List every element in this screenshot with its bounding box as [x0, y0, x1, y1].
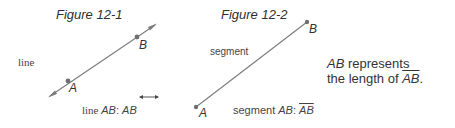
segment-point-a-dot — [194, 105, 198, 109]
figure2-title: Figure 12-2 — [221, 7, 287, 22]
line-notation: AB — [122, 104, 137, 116]
note-notation: AB — [402, 71, 419, 86]
caption-prefix: segment — [233, 104, 278, 116]
caption-name: AB — [278, 104, 293, 116]
figure1-title: Figure 12-1 — [56, 7, 122, 22]
segment-ab — [196, 22, 307, 107]
length-note: AB represents the length of AB. — [327, 56, 423, 86]
line-ab — [50, 25, 155, 96]
figure2-point-a-label: A — [199, 106, 207, 120]
line-notation-arrow-left-icon — [139, 95, 143, 99]
caption-name: AB — [101, 104, 116, 116]
note-end: . — [420, 71, 424, 86]
figure1-point-a-label: A — [69, 81, 77, 95]
note-prefix: the length of — [327, 71, 402, 86]
caption-prefix: line — [82, 104, 101, 116]
figure2-point-b-label: B — [309, 22, 317, 36]
note-rest: represents — [344, 56, 409, 71]
figure1-caption: line AB: AB — [82, 104, 137, 116]
note-name: AB — [327, 56, 344, 71]
figure1-point-b-label: B — [139, 38, 147, 52]
note-line-1: AB represents — [327, 56, 423, 71]
figure2-side-label: segment — [210, 46, 248, 57]
figure2-caption: segment AB: AB — [233, 104, 314, 116]
figure1-side-label: line — [18, 56, 35, 68]
segment-notation: AB — [299, 104, 314, 116]
line-notation-arrow-right-icon — [155, 95, 159, 99]
note-line-2: the length of AB. — [327, 71, 423, 86]
